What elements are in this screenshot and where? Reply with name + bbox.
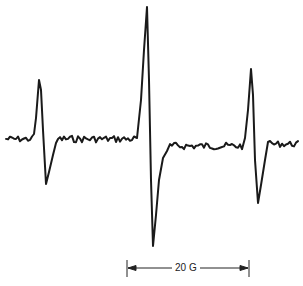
arrow-left-icon bbox=[128, 266, 136, 271]
arrow-right-icon bbox=[240, 266, 248, 271]
epr-spectrum-figure bbox=[0, 0, 303, 286]
scale-bar-label: 20 G bbox=[172, 262, 200, 274]
spectrum-trace bbox=[6, 7, 298, 246]
